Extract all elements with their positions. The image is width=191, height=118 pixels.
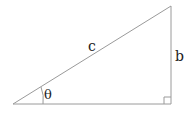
angle-theta-label: θ [44,87,52,102]
right-angle-marker [164,97,171,104]
hypotenuse-label: c [88,38,96,54]
angle-arc [41,87,43,104]
hypotenuse-line [13,6,171,104]
right-triangle-diagram: c b θ [0,0,191,118]
side-b-label: b [175,48,184,64]
